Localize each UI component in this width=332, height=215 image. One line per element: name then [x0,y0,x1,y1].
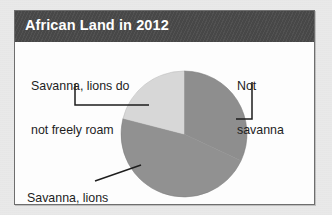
page-title: African Land in 2012 [25,17,169,33]
pie-label-savanna-not-freely-roam: Savanna, lions do not freely roam [31,50,130,166]
pie-chart-plot-area: Savanna, lions do not freely roam Not sa… [15,42,314,204]
pie-label-not-savanna-line1: Not [237,79,284,94]
pie-label-savanna-freely-roam: Savanna, lions freely roam [27,162,108,215]
pie-label-savanna-not-freely-roam-line1: Savanna, lions do [31,79,130,94]
figure-card: African Land in 2012 [14,10,315,205]
pie-label-savanna-freely-roam-line1: Savanna, lions [27,191,108,206]
pie-label-not-savanna: Not savanna [237,50,284,166]
chart-title-bar: African Land in 2012 [15,11,314,42]
page-root: African Land in 2012 [0,0,332,215]
pie-label-savanna-not-freely-roam-line2: not freely roam [31,123,130,138]
pie-label-not-savanna-line2: savanna [237,123,284,138]
